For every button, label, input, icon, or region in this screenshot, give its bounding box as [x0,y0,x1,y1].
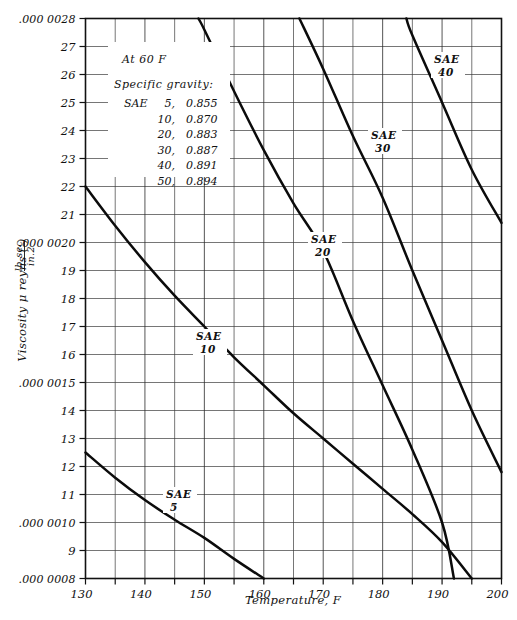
y-tick-label-decade: .000 0008 [19,573,76,586]
y-tick-label: 23 [60,152,76,166]
curve-label-sae-10: SAE10 [193,329,227,355]
y-tick-label-decade: .000 0028 [19,13,76,26]
curve-label-grade: 5 [170,501,178,513]
curve-label-name: SAE [434,53,460,65]
x-tick-label: 140 [130,587,152,601]
y-tick-label: 25 [60,96,76,110]
curve-label-sae-5: SAE5 [163,487,197,513]
annotation-row-value: 0.891 [186,159,218,172]
curve-label-name: SAE [371,129,397,141]
curve-label-sae-20: SAE20 [308,232,342,258]
curve-label-grade: 20 [314,246,331,258]
x-tick-label: 200 [486,587,509,601]
annotation-row-value: 0.883 [186,128,218,141]
y-tick-label: 13 [61,432,76,446]
curve-label-name: SAE [196,330,222,342]
annotation-row-value: 0.887 [186,144,218,157]
annotation-row-grade: 50, [158,175,176,188]
y-tick-label: 24 [60,124,76,138]
x-tick-label: 130 [71,587,93,601]
annotation-row-grade: 40, [157,159,176,172]
annotation-row-grade: 5, [165,97,176,110]
y-tick-label: 9 [68,544,75,558]
annotation-row-value: 0.855 [186,97,218,110]
x-tick-label: 180 [368,587,390,601]
y-tick-label: 17 [61,320,76,334]
x-axis-title: Temperature, F [245,593,342,607]
y-tick-label-decade: .000 0015 [19,377,76,390]
curve-label-grade: 40 [438,66,454,78]
figure-container: SAE5SAE10SAE20SAE30SAE40 At 60 FSpecific… [0,0,517,620]
chart-background [0,0,517,620]
annotation-row-value: 0.870 [186,113,218,126]
y-axis-tickmarks [80,19,86,579]
y-axis-unit-denominator: in.2 [25,246,36,266]
curve-label-name: SAE [311,233,337,245]
annotation-row-grade: 30, [158,144,176,157]
viscosity-temperature-chart: SAE5SAE10SAE20SAE30SAE40 At 60 FSpecific… [0,0,517,620]
curve-label-grade: 10 [200,343,216,355]
y-tick-label: 12 [61,460,76,474]
annotation-row-label: SAE [124,97,148,110]
annotation-row-grade: 10, [158,113,176,126]
annotation-line-2: Specific gravity: [114,78,213,91]
annotation-row-value: 0.894 [186,175,218,188]
y-tick-label: 11 [61,488,76,502]
y-axis-unit-numerator: lb sec [13,241,24,272]
y-tick-label: 27 [60,40,76,54]
y-tick-label: 18 [61,292,76,306]
y-tick-label: 16 [61,348,76,362]
annotation-block: At 60 FSpecific gravity:SAE5,0.85510,0.8… [108,42,230,188]
curve-label-sae-40: SAE40 [431,52,465,78]
curve-label-sae-30: SAE30 [368,128,402,154]
y-tick-label: 21 [60,208,76,222]
annotation-row-grade: 20, [157,128,176,141]
y-tick-label: 26 [60,68,76,82]
curve-label-grade: 30 [375,142,391,154]
curve-label-name: SAE [166,488,192,500]
annotation-line-1: At 60 F [121,53,166,66]
y-tick-label-decade: .000 0010 [19,517,76,530]
y-tick-label: 19 [61,264,76,278]
y-tick-label: 14 [61,404,76,418]
y-tick-label: 22 [60,180,76,194]
x-tick-label: 150 [189,587,211,601]
x-tick-label: 190 [427,587,449,601]
